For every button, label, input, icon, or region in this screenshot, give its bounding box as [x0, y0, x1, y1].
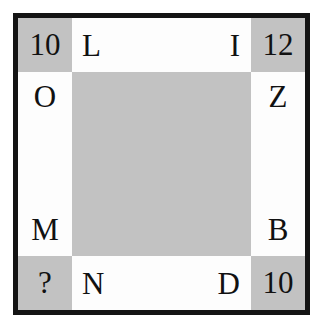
edge-band-left: O M [18, 72, 72, 256]
edge-band-top: L I [72, 18, 251, 72]
corner-value-bottom-right: 10 [263, 267, 294, 298]
corner-value-top-left: 10 [30, 29, 61, 60]
letter-top-right: I [230, 30, 240, 61]
letter-bottom-left: N [82, 268, 104, 299]
edge-band-right: Z B [251, 72, 305, 256]
corner-value-bottom-left: ? [38, 267, 52, 298]
corner-cell-bottom-left: ? [18, 256, 72, 310]
corner-cell-top-left: 10 [18, 18, 72, 72]
edge-band-bottom: N D [72, 256, 251, 310]
letter-left-top: O [34, 81, 56, 112]
letter-right-bottom: B [268, 214, 289, 245]
letter-left-bottom: M [31, 214, 59, 245]
corner-cell-top-right: 12 [251, 18, 305, 72]
letter-right-top: Z [269, 81, 288, 112]
letter-top-left: L [82, 30, 101, 61]
center-block [72, 72, 251, 256]
grid-plane: 10 L I 12 O M Z B ? N [18, 18, 305, 310]
corner-value-top-right: 12 [263, 29, 294, 60]
puzzle-canvas: 10 L I 12 O M Z B ? N [0, 0, 322, 327]
corner-cell-bottom-right: 10 [251, 256, 305, 310]
letter-bottom-right: D [218, 268, 240, 299]
